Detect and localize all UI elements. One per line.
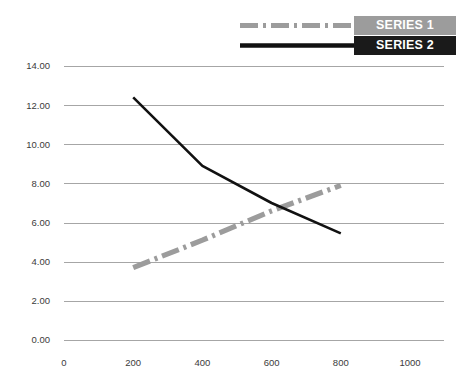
x-axis-tick-label: 600 bbox=[264, 357, 280, 368]
x-axis-tick-label: 400 bbox=[194, 357, 210, 368]
series-paths bbox=[133, 97, 341, 267]
y-axis-tick-label: 12.00 bbox=[26, 100, 50, 111]
series-line-1 bbox=[133, 185, 341, 267]
y-axis-tick-label: 0.00 bbox=[32, 334, 51, 345]
y-axis-tick-label: 14.00 bbox=[26, 60, 50, 71]
y-axis-tick-label: 4.00 bbox=[32, 256, 51, 267]
plot-area: 0.002.004.006.008.0010.0012.0014.00 0200… bbox=[0, 0, 456, 388]
x-axis-tick-labels: 02004006008001000 bbox=[61, 357, 420, 368]
y-axis-tick-label: 10.00 bbox=[26, 139, 50, 150]
series-line-2 bbox=[133, 97, 341, 233]
y-axis-tick-labels: 0.002.004.006.008.0010.0012.0014.00 bbox=[26, 60, 50, 345]
gridlines bbox=[64, 67, 444, 341]
y-axis-tick-label: 8.00 bbox=[32, 178, 51, 189]
y-axis-tick-label: 6.00 bbox=[32, 217, 51, 228]
x-axis-tick-label: 0 bbox=[61, 357, 66, 368]
y-axis-tick-label: 2.00 bbox=[32, 295, 51, 306]
chart-container: SERIES 1 SERIES 2 0.002.004.006.008.0010… bbox=[0, 0, 456, 388]
x-axis-tick-label: 1000 bbox=[399, 357, 420, 368]
x-axis-tick-label: 200 bbox=[125, 357, 141, 368]
x-axis-tick-label: 800 bbox=[333, 357, 349, 368]
